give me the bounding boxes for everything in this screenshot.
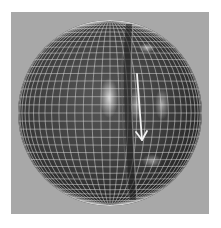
sphere-render-canvas (0, 0, 221, 228)
sphere (18, 20, 202, 206)
sphere-render-figure: 3D rendered sphere with wireframe grid, … (0, 0, 221, 228)
